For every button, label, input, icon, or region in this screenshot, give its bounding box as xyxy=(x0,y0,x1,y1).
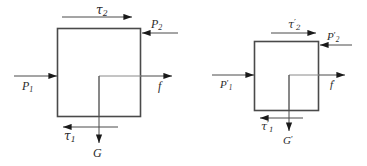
label-tau2: τ2 xyxy=(96,4,108,18)
label-P1: P1 xyxy=(22,80,33,94)
left-diagram-group xyxy=(14,17,178,143)
diagram-vector-layer xyxy=(0,0,367,166)
label-tau2-prime: τ′2 xyxy=(288,19,301,31)
right-block-outline xyxy=(255,42,319,111)
label-tau1-prime: τ′1 xyxy=(261,121,274,133)
figure-canvas: τ2 P2 P1 f τ1 G τ′2 P′2 P′1 f′ τ′1 G′ xyxy=(0,0,367,166)
label-P2: P2 xyxy=(151,18,162,32)
label-P1-prime: P′1 xyxy=(220,79,232,92)
label-P2-prime: P′2 xyxy=(327,31,339,44)
label-f: f xyxy=(158,80,161,92)
label-G: G xyxy=(93,147,102,159)
label-f-prime: f′ xyxy=(330,79,335,90)
label-G-prime: G′ xyxy=(283,135,293,146)
label-tau1: τ1 xyxy=(64,130,76,144)
